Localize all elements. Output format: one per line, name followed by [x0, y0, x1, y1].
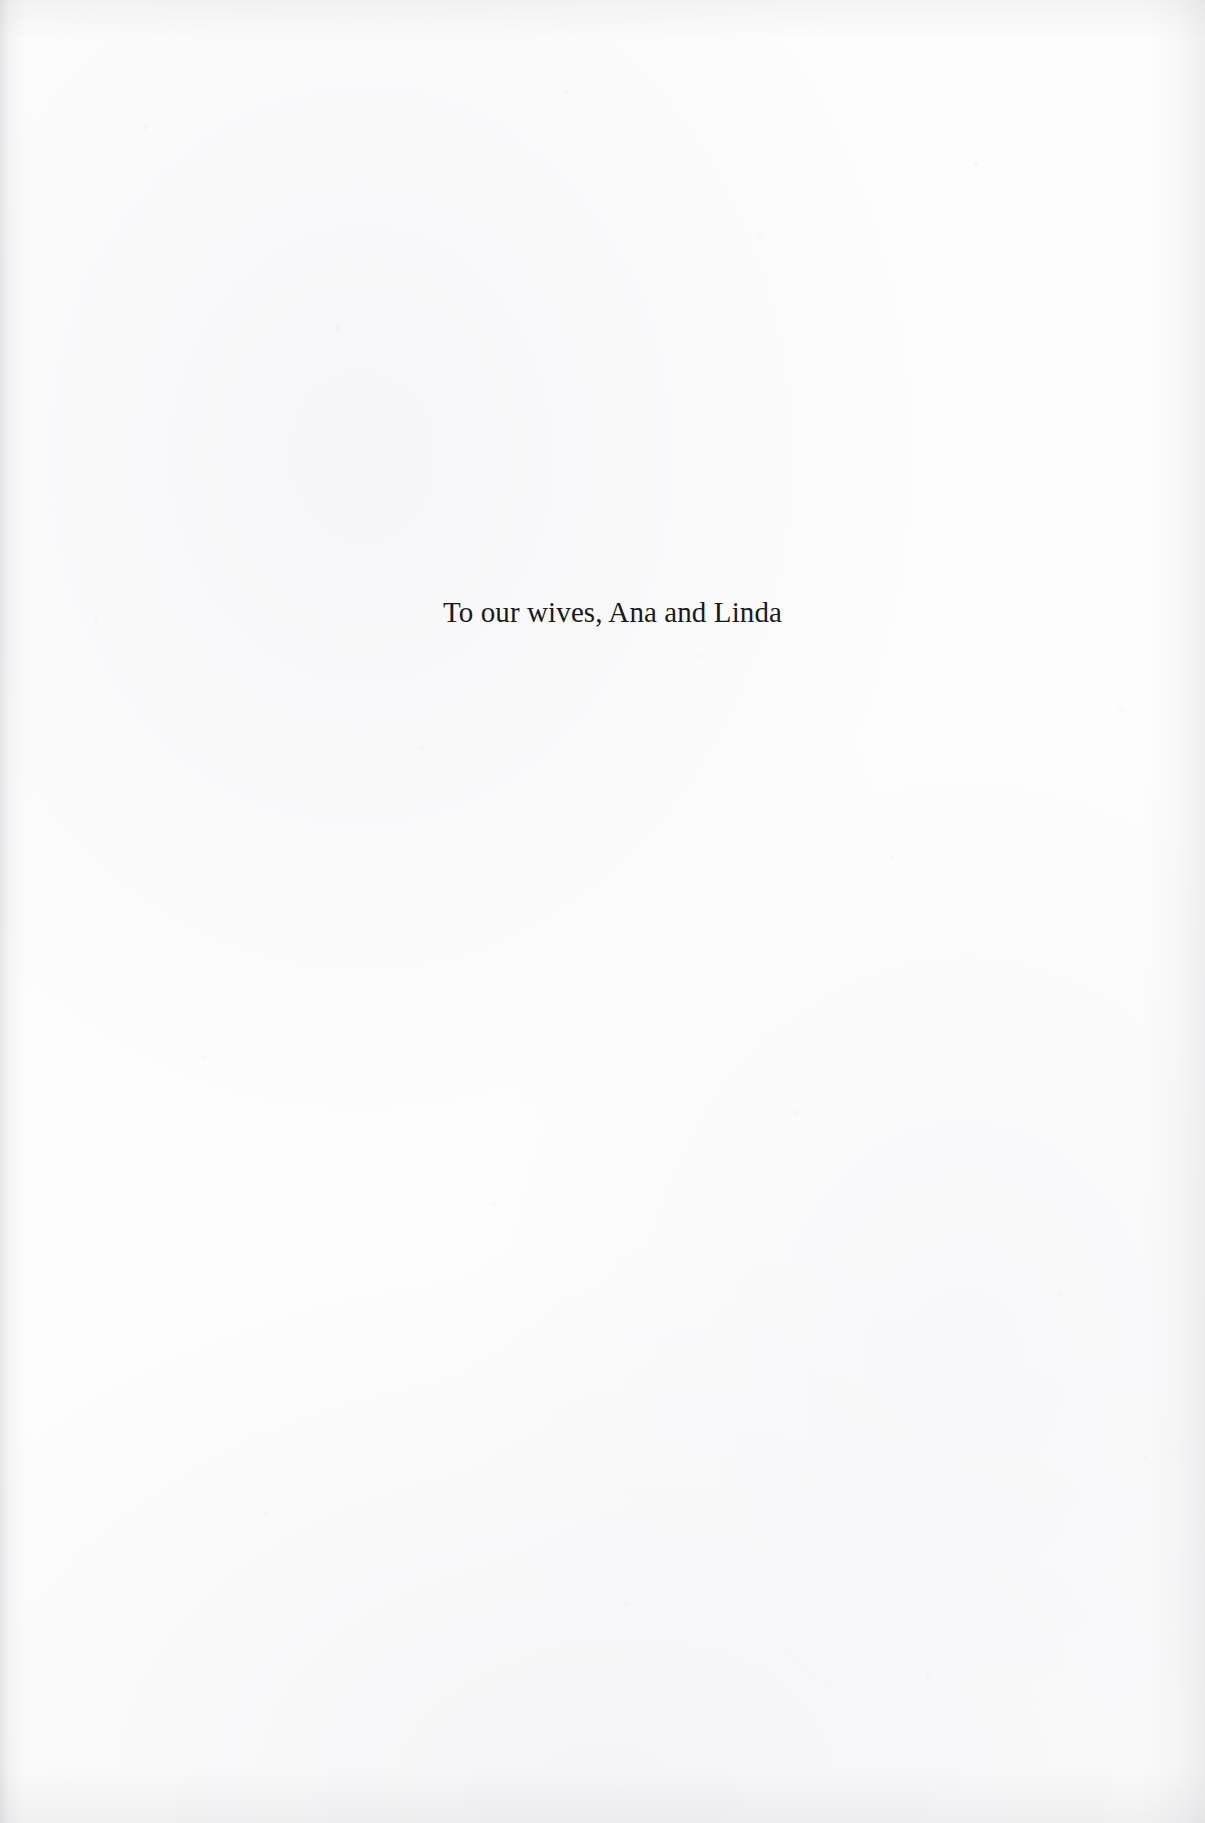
- page-edge-shadow-bottom: [0, 1768, 1205, 1823]
- dedication-block: To our wives, Ana and Linda: [0, 0, 1205, 1823]
- page-edge-shadow-top: [0, 0, 1205, 40]
- paper-tone-overlay: [0, 0, 1205, 1823]
- paper-grain-texture: [0, 0, 1205, 1823]
- page-edge-shadow-left: [0, 0, 26, 1823]
- dedication-text: To our wives, Ana and Linda: [443, 596, 782, 629]
- scanned-page: To our wives, Ana and Linda: [0, 0, 1205, 1823]
- page-edge-shadow-right: [1145, 0, 1205, 1823]
